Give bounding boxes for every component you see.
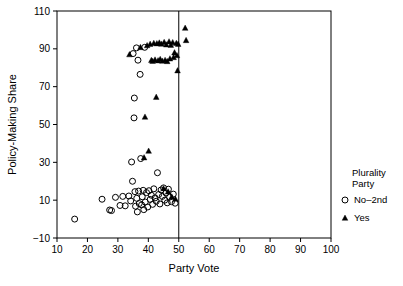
tick-labels-group: 102030405060708090100−101030507090110	[33, 6, 340, 256]
legend-marker-yes	[342, 215, 348, 220]
data-point-yes	[127, 52, 133, 57]
data-point-no-2nd	[129, 159, 135, 165]
x-tick-label: 20	[82, 244, 94, 255]
data-point-yes	[142, 114, 148, 119]
data-point-no-2nd	[137, 71, 143, 77]
data-point-yes	[183, 37, 189, 42]
data-point-yes	[182, 25, 188, 30]
y-tick-label: 70	[39, 81, 51, 92]
plot-frame	[57, 11, 331, 238]
legend-label-no-2nd: No–2nd	[354, 194, 387, 205]
x-axis-title: Party Vote	[169, 262, 220, 274]
x-tick-label: 60	[204, 244, 216, 255]
axes-group	[53, 11, 331, 242]
x-tick-label: 50	[173, 244, 185, 255]
y-tick-label: −10	[33, 233, 50, 244]
x-tick-label: 10	[51, 244, 63, 255]
data-point-yes	[175, 68, 181, 73]
data-point-no-2nd	[131, 115, 137, 121]
y-tick-label: 10	[39, 195, 51, 206]
data-point-no-2nd	[120, 193, 126, 199]
data-points-group	[72, 25, 189, 222]
data-point-no-2nd	[135, 57, 141, 63]
y-axis-title: Policy-Making Share	[6, 74, 18, 175]
x-tick-label: 30	[112, 244, 124, 255]
data-point-yes	[146, 148, 152, 153]
x-tick-label: 70	[234, 244, 246, 255]
legend-label-yes: Yes	[354, 212, 370, 223]
data-point-no-2nd	[112, 194, 118, 200]
data-point-yes	[153, 94, 159, 99]
scatter-chart: 102030405060708090100−101030507090110 Pa…	[0, 0, 403, 286]
data-point-no-2nd	[154, 170, 160, 176]
x-tick-label: 90	[295, 244, 307, 255]
x-tick-label: 40	[143, 244, 155, 255]
data-point-no-2nd	[72, 216, 78, 222]
data-point-no-2nd	[99, 196, 105, 202]
data-point-no-2nd	[130, 178, 136, 184]
legend-title-line1: Plurality	[352, 167, 386, 178]
data-point-no-2nd	[134, 209, 140, 215]
y-tick-label: 50	[39, 119, 51, 130]
y-tick-label: 90	[39, 43, 51, 54]
y-tick-label: 30	[39, 157, 51, 168]
y-tick-label: 110	[34, 6, 50, 17]
legend-title-line2: Party	[352, 178, 374, 189]
x-tick-label: 100	[323, 244, 340, 255]
legend-group: PluralityPartyNo–2ndYes	[342, 167, 387, 223]
x-tick-label: 80	[265, 244, 277, 255]
legend-marker-no-2nd	[342, 197, 348, 203]
chart-canvas: 102030405060708090100−101030507090110 Pa…	[0, 0, 403, 286]
data-point-no-2nd	[131, 95, 137, 101]
